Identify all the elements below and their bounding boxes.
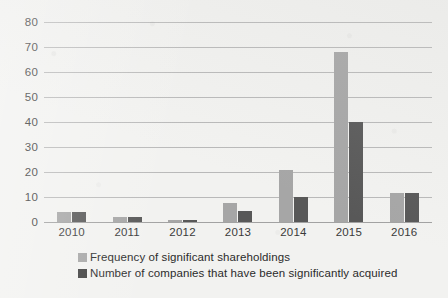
- bar-group-2010: [44, 22, 99, 222]
- bar-2012-series-1[interactable]: [183, 220, 197, 222]
- plot-area: [44, 22, 432, 222]
- bar-group-2015: [321, 22, 376, 222]
- y-axis-tick-labels: 01020304050607080: [0, 22, 38, 222]
- bar-2014-series-1[interactable]: [294, 197, 308, 222]
- legend-item-number-of-companies-significantly-acquired[interactable]: Number of companies that have been signi…: [0, 267, 448, 279]
- gridline-0: [44, 222, 432, 223]
- y-tick-label-20: 20: [25, 166, 38, 178]
- bar-2013-series-0[interactable]: [223, 203, 237, 222]
- y-tick-label-10: 10: [25, 191, 38, 203]
- bar-2016-series-0[interactable]: [390, 193, 404, 222]
- x-tick-label-2011: 2011: [114, 226, 140, 238]
- x-tick-label-2015: 2015: [336, 226, 362, 238]
- legend-item-frequency-of-significant-shareholdings[interactable]: Frequency of significant shareholdings: [0, 251, 448, 263]
- bar-2013-series-1[interactable]: [238, 211, 252, 222]
- bar-2011-series-0[interactable]: [113, 217, 127, 222]
- bar-group-2012: [155, 22, 210, 222]
- bar-group-2014: [266, 22, 321, 222]
- x-tick-label-2010: 2010: [59, 226, 85, 238]
- bar-2016-series-1[interactable]: [405, 193, 419, 222]
- bar-group-2011: [99, 22, 154, 222]
- y-tick-label-60: 60: [25, 66, 38, 78]
- bar-2015-series-1[interactable]: [349, 122, 363, 222]
- x-axis-category-labels: 2010201120122013201420152016: [44, 226, 432, 244]
- bar-2010-series-1[interactable]: [72, 212, 86, 222]
- bar-2011-series-1[interactable]: [128, 217, 142, 222]
- bar-series-container: [44, 22, 432, 222]
- bar-2010-series-0[interactable]: [57, 212, 71, 222]
- legend-swatch-icon: [78, 253, 87, 262]
- y-tick-label-80: 80: [25, 16, 38, 28]
- y-tick-label-40: 40: [25, 116, 38, 128]
- y-tick-label-0: 0: [31, 216, 38, 228]
- y-tick-label-50: 50: [25, 91, 38, 103]
- bar-group-2016: [377, 22, 432, 222]
- chart-legend: Frequency of significant shareholdings N…: [0, 251, 448, 283]
- x-tick-label-2016: 2016: [391, 226, 417, 238]
- x-tick-label-2014: 2014: [280, 226, 306, 238]
- bar-2014-series-0[interactable]: [279, 170, 293, 223]
- x-tick-label-2012: 2012: [169, 226, 195, 238]
- legend-swatch-icon: [78, 269, 87, 278]
- legend-label: Number of companies that have been signi…: [90, 267, 397, 279]
- y-tick-label-70: 70: [25, 41, 38, 53]
- bar-2015-series-0[interactable]: [334, 52, 348, 222]
- y-tick-label-30: 30: [25, 141, 38, 153]
- bar-group-2013: [210, 22, 265, 222]
- bar-chart: 01020304050607080 2010201120122013201420…: [0, 0, 448, 298]
- bar-2012-series-0[interactable]: [168, 220, 182, 222]
- x-tick-label-2013: 2013: [225, 226, 251, 238]
- legend-label: Frequency of significant shareholdings: [90, 251, 290, 263]
